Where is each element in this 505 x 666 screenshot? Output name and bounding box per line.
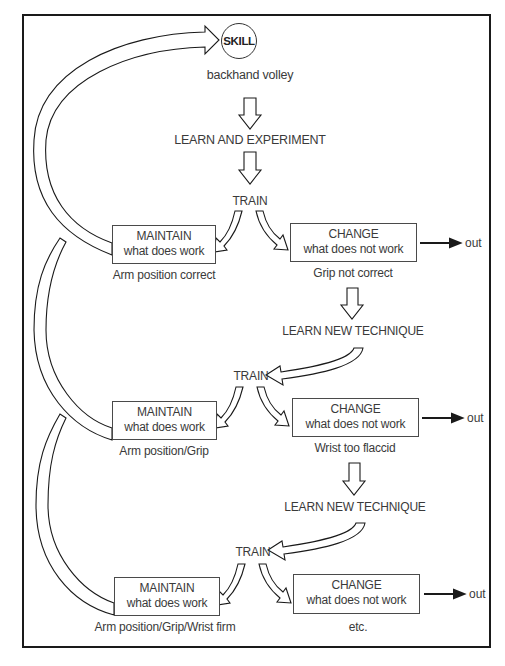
- arrow-train-to-change-1: [256, 211, 288, 250]
- out-label-1: out: [465, 236, 482, 250]
- maintain-note-3: Arm position/Grip/Wrist firm: [95, 620, 236, 634]
- maintain-note-1: Arm position correct: [113, 268, 216, 282]
- change-title: CHANGE: [291, 227, 416, 242]
- maintain-note-2: Arm position/Grip: [119, 444, 208, 458]
- stage-learn-new-technique-2: LEARN NEW TECHNIQUE: [284, 500, 425, 514]
- stage-learn-new-technique-1: LEARN NEW TECHNIQUE: [282, 324, 423, 338]
- train-label-1: TRAIN: [232, 194, 267, 208]
- arrow-train-to-maintain-1: [214, 211, 242, 252]
- arrow-train-to-maintain-3: [217, 564, 245, 605]
- change-subtitle: what does not work: [294, 593, 419, 608]
- change-subtitle: what does not work: [293, 417, 418, 432]
- train-label-3: TRAIN: [235, 545, 270, 559]
- arrow-layer: [0, 0, 505, 666]
- down-arrow-change-to-learn-2: [343, 463, 365, 495]
- feedback-loop-arrow-bottom: [36, 414, 114, 615]
- stage-learn-and-experiment: LEARN AND EXPERIMENT: [174, 133, 326, 147]
- maintain-box-1: MAINTAIN what does work: [112, 225, 216, 264]
- arrow-train-to-change-2: [257, 387, 289, 426]
- maintain-title: MAINTAIN: [113, 405, 216, 420]
- change-title: CHANGE: [294, 578, 419, 593]
- skill-subject: backhand volley: [207, 68, 294, 82]
- down-arrow-learn-to-train: [239, 152, 261, 184]
- arrow-learn-to-train-2: [266, 348, 363, 385]
- maintain-subtitle: what does work: [113, 244, 215, 259]
- change-box-3: CHANGE what does not work: [293, 574, 420, 614]
- out-label-3: out: [469, 587, 486, 601]
- arrow-train-to-change-3: [259, 564, 291, 603]
- change-note-1: Grip not correct: [313, 266, 393, 280]
- train-label-2: TRAIN: [233, 369, 268, 383]
- maintain-box-3: MAINTAIN what does work: [114, 577, 220, 616]
- change-note-3: etc.: [349, 620, 368, 634]
- change-box-2: CHANGE what does not work: [292, 398, 419, 437]
- arrow-train-to-maintain-2: [215, 387, 243, 428]
- arrow-learn-to-train-3: [268, 523, 365, 560]
- maintain-subtitle: what does work: [113, 420, 216, 435]
- maintain-box-2: MAINTAIN what does work: [112, 401, 217, 440]
- out-label-2: out: [467, 411, 484, 425]
- maintain-title: MAINTAIN: [115, 581, 219, 596]
- change-note-2: Wrist too flaccid: [314, 441, 395, 455]
- feedback-loop-arrow-middle: [34, 238, 112, 440]
- change-box-1: CHANGE what does not work: [290, 223, 417, 262]
- change-title: CHANGE: [293, 402, 418, 417]
- change-subtitle: what does not work: [291, 242, 416, 257]
- skill-node: SKILL: [221, 23, 257, 59]
- down-arrow-change-to-learn-1: [341, 288, 363, 319]
- down-arrow-skill-to-learn: [239, 98, 261, 129]
- maintain-subtitle: what does work: [115, 596, 219, 611]
- skill-label: SKILL: [223, 35, 255, 47]
- maintain-title: MAINTAIN: [113, 229, 215, 244]
